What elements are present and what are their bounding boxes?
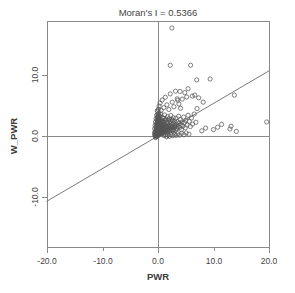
y-tick-label-minus10: -10.0 — [30, 187, 40, 207]
x-axis-ticks — [48, 248, 270, 253]
data-point — [170, 100, 174, 104]
data-point — [195, 78, 199, 82]
x-axis-title: PWR — [147, 271, 169, 282]
data-point — [232, 93, 236, 97]
y-axis-ticks — [42, 76, 47, 198]
data-point — [170, 26, 174, 30]
data-point — [168, 63, 172, 67]
data-point — [172, 105, 176, 109]
data-point — [173, 89, 177, 93]
x-tick-label-10: 10.0 — [206, 256, 223, 266]
data-point — [190, 94, 194, 98]
data-point — [265, 120, 269, 124]
data-point — [193, 93, 197, 97]
data-points-layer — [152, 26, 268, 140]
moran-scatterplot: Moran's I = 0.5366 -20.0 -10.0 0.0 10.0 — [0, 0, 295, 293]
data-point — [194, 120, 198, 124]
data-point — [204, 126, 208, 130]
data-point — [185, 95, 189, 99]
data-point — [228, 127, 232, 131]
x-tick-label-20: 20.0 — [261, 256, 278, 266]
x-tick-label-zero: 0.0 — [152, 256, 164, 266]
data-point — [186, 87, 190, 91]
data-point — [167, 107, 171, 111]
data-point — [201, 100, 205, 104]
plot-canvas: Moran's I = 0.5366 -20.0 -10.0 0.0 10.0 — [0, 0, 295, 293]
data-point — [189, 63, 193, 67]
data-point — [163, 95, 167, 99]
data-point — [168, 92, 172, 96]
data-point — [178, 106, 182, 110]
x-tick-label-minus20: -20.0 — [37, 256, 57, 266]
y-axis-title: W_PWR — [8, 118, 19, 155]
y-tick-label-zero: 0.0 — [30, 130, 40, 142]
data-point — [200, 129, 204, 133]
data-point — [178, 89, 182, 93]
data-point — [195, 106, 199, 110]
data-point — [180, 97, 184, 101]
y-tick-label-10: 10.0 — [30, 66, 40, 83]
data-point — [229, 124, 233, 128]
x-tick-label-minus10: -10.0 — [93, 256, 113, 266]
data-point — [165, 103, 169, 107]
data-point — [183, 91, 187, 95]
data-point — [234, 129, 238, 133]
data-point — [216, 125, 220, 129]
data-point — [219, 122, 223, 126]
data-point — [208, 77, 212, 81]
data-point — [197, 96, 201, 100]
page-title: Moran's I = 0.5366 — [119, 7, 198, 18]
data-point — [211, 127, 215, 131]
